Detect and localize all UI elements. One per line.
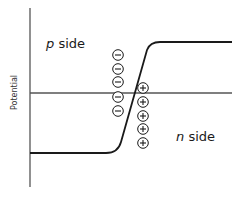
negative-charges bbox=[113, 50, 124, 117]
negative-charge-icon bbox=[113, 77, 124, 88]
negative-charge-icon bbox=[113, 106, 124, 117]
positive-charge-icon bbox=[138, 138, 149, 149]
p-side-var: p bbox=[46, 36, 54, 51]
positive-charge-icon bbox=[138, 83, 149, 94]
p-side-text: side bbox=[58, 36, 85, 51]
n-side-var: n bbox=[176, 129, 184, 144]
negative-charge-icon bbox=[113, 64, 124, 75]
positive-charge-icon bbox=[138, 97, 149, 108]
p-side-label: p side bbox=[46, 36, 85, 51]
pn-junction-diagram bbox=[0, 0, 242, 198]
positive-charge-icon bbox=[138, 111, 149, 122]
positive-charge-icon bbox=[138, 124, 149, 135]
n-side-text: side bbox=[188, 129, 215, 144]
negative-charge-icon bbox=[113, 50, 124, 61]
n-side-label: n side bbox=[176, 129, 215, 144]
negative-charge-icon bbox=[113, 92, 124, 103]
y-axis-label: Potential bbox=[10, 75, 19, 111]
